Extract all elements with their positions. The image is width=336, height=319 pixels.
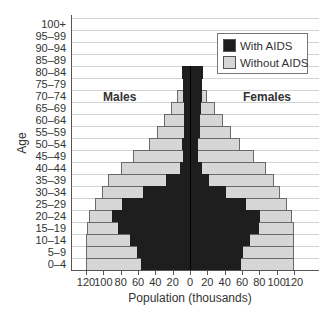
- age-label: 95–99: [14, 30, 66, 42]
- age-label: 80–84: [14, 66, 66, 78]
- x-tick-label: 60: [132, 276, 144, 288]
- x-tick-label: 40: [149, 276, 161, 288]
- x-tick-label: 100: [267, 276, 285, 288]
- age-label: 15–19: [14, 222, 66, 234]
- y-axis-title: Age: [15, 132, 29, 153]
- x-tick-label: 100: [94, 276, 112, 288]
- legend-item-without-aids: Without AIDS: [223, 56, 308, 69]
- x-tick-label: 40: [219, 276, 231, 288]
- age-label: 100+: [14, 18, 66, 30]
- x-tick-label: 20: [201, 276, 213, 288]
- age-label: 90–94: [14, 42, 66, 54]
- legend-label-with-aids: With AIDS: [240, 40, 292, 52]
- age-label: 35–39: [14, 174, 66, 186]
- x-tick-label: 120: [285, 276, 303, 288]
- age-label: 65–69: [14, 102, 66, 114]
- age-label: 0–4: [14, 258, 66, 270]
- without-aids-swatch: [223, 56, 236, 69]
- age-label: 25–29: [14, 198, 66, 210]
- legend-label-without-aids: Without AIDS: [240, 57, 308, 69]
- age-label: 40–44: [14, 162, 66, 174]
- females-label: Females: [243, 90, 291, 104]
- age-label: 20–24: [14, 210, 66, 222]
- age-label: 10–14: [14, 234, 66, 246]
- x-tick-label: 120: [77, 276, 95, 288]
- x-axis-title: Population (thousands): [128, 291, 251, 305]
- age-label: 30–34: [14, 186, 66, 198]
- population-pyramid-chart: 100+95–9990–9485–8980–8475–7970–7465–696…: [0, 0, 336, 319]
- age-label: 60–64: [14, 114, 66, 126]
- x-tick-label: 80: [115, 276, 127, 288]
- center-divider: [190, 66, 191, 270]
- age-label: 75–79: [14, 78, 66, 90]
- males-label: Males: [103, 90, 136, 104]
- x-axis-line: [71, 270, 319, 271]
- x-tick-label: 0: [187, 276, 193, 288]
- gridline: [72, 30, 319, 31]
- age-label: 70–74: [14, 90, 66, 102]
- age-label: 85–89: [14, 54, 66, 66]
- age-label: 5–9: [14, 246, 66, 258]
- with-aids-swatch: [223, 39, 236, 52]
- legend-item-with-aids: With AIDS: [223, 39, 292, 52]
- y-axis-line: [71, 15, 72, 271]
- x-tick-label: 60: [236, 276, 248, 288]
- legend: With AIDS Without AIDS: [217, 33, 308, 74]
- x-tick-label: 80: [253, 276, 265, 288]
- x-tick-label: 20: [167, 276, 179, 288]
- gridline: [72, 18, 319, 19]
